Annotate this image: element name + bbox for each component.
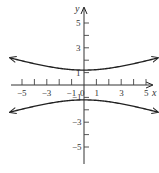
y-tick-label: 5 <box>76 18 81 28</box>
x-tick-label: 3 <box>119 88 124 98</box>
y-tick-label: −5 <box>72 142 82 152</box>
x-tick-label: 1 <box>94 88 99 98</box>
y-tick-label: 3 <box>76 43 81 53</box>
tick-labels: −5−3−10135531−1−3−5xy <box>17 3 157 152</box>
x-axis-label: x <box>151 87 157 98</box>
y-axis-label: y <box>74 3 80 14</box>
axes <box>11 8 152 164</box>
x-tick-label: 5 <box>144 88 149 98</box>
y-tick-label: 1 <box>76 68 81 78</box>
x-tick-label: −3 <box>42 88 52 98</box>
hyperbola-plot: −5−3−10135531−1−3−5xy <box>0 0 159 173</box>
y-tick-label: −3 <box>72 117 82 127</box>
x-tick-label: −5 <box>17 88 27 98</box>
